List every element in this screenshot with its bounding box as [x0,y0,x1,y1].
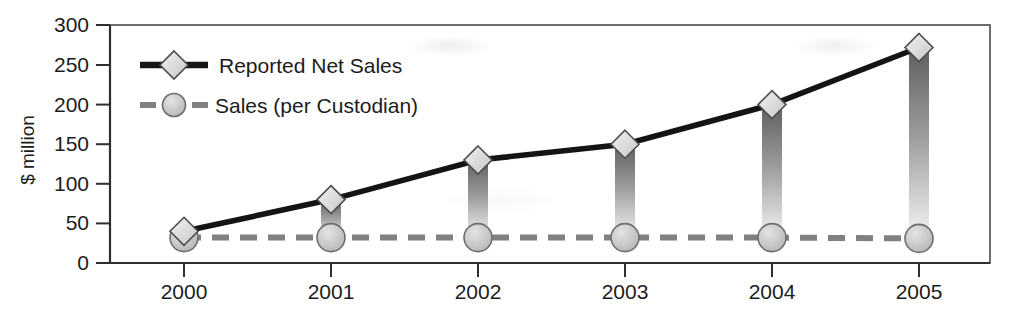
y-tick-label-250: 250 [54,53,89,76]
connector-bar-2004 [762,105,782,238]
x-axis: 2000 2001 2002 2003 2004 2005 [110,263,990,303]
series2-point-2004 [758,224,786,252]
y-tick-label-100: 100 [54,172,89,195]
legend-entry-sales-per-custodian[interactable]: Sales (per Custodian) [140,94,418,118]
x-tick-label-2001: 2001 [308,280,355,303]
legend-circle-2 [163,94,186,117]
sales-line-chart: 0 50 100 150 200 250 300 $ million 2000 … [0,0,1036,320]
y-tick-label-200: 200 [54,93,89,116]
chart-container: 0 50 100 150 200 250 300 $ million 2000 … [0,0,1036,320]
series2-point-2002 [464,224,492,252]
x-tick-label-2004: 2004 [749,280,796,303]
connector-bar-2005 [909,48,929,239]
legend-label-reported-net-sales: Reported Net Sales [219,54,402,77]
series2-point-2003 [611,224,639,252]
x-tick-label-2005: 2005 [896,280,943,303]
y-tick-label-0: 0 [77,251,89,274]
series2-point-2005 [905,224,933,252]
x-tick-label-2002: 2002 [455,280,502,303]
circle-marker-icon [140,94,208,117]
y-axis-title: $ million [17,115,38,185]
y-tick-label-150: 150 [54,132,89,155]
x-tick-label-2003: 2003 [602,280,649,303]
y-axis: 0 50 100 150 200 250 300 $ million [17,13,110,274]
y-tick-label-50: 50 [66,211,89,234]
diamond-marker-icon [140,51,208,79]
series2-point-2001 [317,224,345,252]
legend-diamond-1 [160,51,188,79]
legend-label-sales-per-custodian: Sales (per Custodian) [215,94,418,117]
x-tick-label-2000: 2000 [161,280,208,303]
legend-entry-reported-net-sales[interactable]: Reported Net Sales [140,51,402,79]
series2-line [184,238,919,239]
series-sales-per-custodian [170,224,933,253]
chart-legend: Reported Net Sales Sales (per Custodian) [140,51,418,117]
y-tick-label-300: 300 [54,13,89,36]
